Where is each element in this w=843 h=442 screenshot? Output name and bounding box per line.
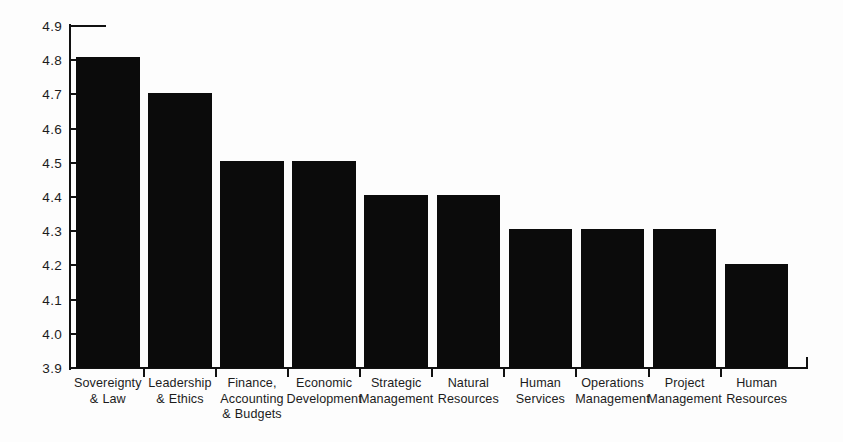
bar: [76, 57, 140, 368]
bar-chart: 4.94.84.74.64.54.44.34.24.14.03.9 Sovere…: [0, 0, 843, 442]
y-axis-tick-label: 4.3: [26, 224, 62, 239]
bar: [509, 229, 573, 368]
y-axis-tick-labels: 4.94.84.74.64.54.44.34.24.14.03.9: [22, 0, 62, 442]
category-label-line: Development: [284, 392, 364, 408]
y-axis-tick-label: 4.0: [26, 326, 62, 341]
x-axis-category-label: Finance,Accounting& Budgets: [212, 376, 292, 423]
plot-area: 4.94.84.74.64.54.44.34.24.14.03.9 Sovere…: [0, 0, 843, 442]
category-label-line: & Law: [68, 392, 148, 408]
axis-top-rule: [69, 25, 106, 27]
category-label-line: Sovereignty: [68, 376, 148, 392]
category-label-line: Resources: [717, 392, 797, 408]
category-label-line: Management: [645, 392, 725, 408]
category-label-line: Operations: [572, 376, 652, 392]
x-axis-category-label: ProjectManagement: [645, 376, 725, 407]
x-axis-category-label: StrategicManagement: [356, 376, 436, 407]
category-label-line: Finance,: [212, 376, 292, 392]
category-label-line: Project: [645, 376, 725, 392]
bar: [581, 229, 645, 368]
x-axis-category-label: NaturalResources: [428, 376, 508, 407]
bar: [148, 93, 212, 368]
category-label-line: & Ethics: [140, 392, 220, 408]
y-axis-tick-label: 3.9: [26, 361, 62, 376]
x-axis-category-label: HumanServices: [500, 376, 580, 407]
category-label-line: Management: [356, 392, 436, 408]
y-axis-tick-label: 4.4: [26, 190, 62, 205]
bar: [437, 195, 501, 368]
category-label-line: Leadership: [140, 376, 220, 392]
category-label-line: Accounting: [212, 392, 292, 408]
y-axis-tick-label: 4.2: [26, 258, 62, 273]
category-label-line: Management: [572, 392, 652, 408]
y-axis-tick-label: 4.7: [26, 87, 62, 102]
category-label-line: Human: [500, 376, 580, 392]
x-axis-category-label: Leadership& Ethics: [140, 376, 220, 407]
y-axis-tick-label: 4.8: [26, 53, 62, 68]
category-label-line: Natural: [428, 376, 508, 392]
bar: [653, 229, 717, 368]
bar: [220, 161, 284, 368]
y-axis-tick-label: 4.9: [26, 19, 62, 34]
bar: [364, 195, 428, 368]
category-label-line: Services: [500, 392, 580, 408]
category-label-line: Strategic: [356, 376, 436, 392]
y-axis-tick-label: 4.5: [26, 155, 62, 170]
bar: [725, 264, 789, 368]
category-label-line: Human: [717, 376, 797, 392]
category-label-line: & Budgets: [212, 407, 292, 423]
category-label-line: Economic: [284, 376, 364, 392]
x-axis-category-label: OperationsManagement: [572, 376, 652, 407]
y-axis-tick-label: 4.1: [26, 292, 62, 307]
category-label-line: Resources: [428, 392, 508, 408]
x-axis-end-tick: [806, 357, 808, 369]
x-axis-category-label: HumanResources: [717, 376, 797, 407]
bar: [292, 161, 356, 368]
x-axis-category-label: Sovereignty& Law: [68, 376, 148, 407]
y-axis-tick-label: 4.6: [26, 121, 62, 136]
x-axis-category-label: EconomicDevelopment: [284, 376, 364, 407]
